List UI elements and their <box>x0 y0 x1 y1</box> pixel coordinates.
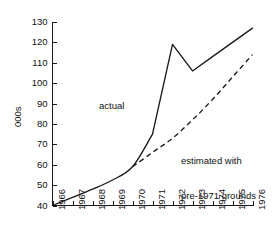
y-axis-tick-label: 70 <box>22 139 48 149</box>
y-axis-tick-label: 60 <box>22 160 48 170</box>
y-axis-tick-label: 120 <box>22 37 48 47</box>
y-axis-tick-label: 110 <box>22 58 48 68</box>
annotation-estimated-line2: pre-1971 grounds <box>181 190 256 202</box>
line-chart: 405060708090100110120130 196619671968196… <box>0 0 273 249</box>
x-axis-tick-label: 1966 <box>57 188 67 209</box>
x-axis-tick-label: 1970 <box>137 188 147 209</box>
y-axis-tick-label: 80 <box>22 119 48 129</box>
y-axis-title: 000s <box>12 106 23 127</box>
y-axis-ticks <box>53 23 58 207</box>
y-axis-tick-label: 50 <box>22 180 48 190</box>
x-axis-tick-label: 1968 <box>97 188 107 209</box>
x-axis-tick-label: 1976 <box>257 188 267 209</box>
y-axis-tick-label: 130 <box>22 17 48 27</box>
y-axis-tick-label: 90 <box>22 99 48 109</box>
y-axis-tick-label: 100 <box>22 78 48 88</box>
annotation-estimated-line1: estimated with <box>181 155 256 167</box>
annotation-actual: actual <box>99 100 124 112</box>
y-axis-tick-label: 40 <box>22 201 48 211</box>
x-axis-tick-label: 1969 <box>117 188 127 209</box>
x-axis-tick-label: 1967 <box>77 188 87 209</box>
annotation-estimated: estimated with pre-1971 grounds <box>181 132 256 224</box>
x-axis-tick-label: 1971 <box>157 188 167 209</box>
